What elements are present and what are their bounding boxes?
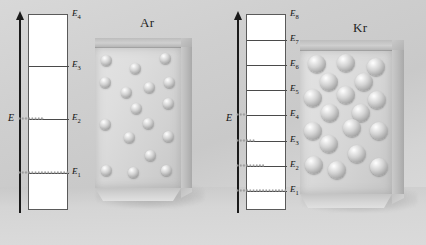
energy-axis-label-krypton: E (226, 113, 232, 123)
container-right-face-argon (181, 47, 192, 188)
container-bottom-bevel-krypton (392, 194, 404, 204)
gas-particle (337, 86, 355, 104)
panel-argon: E E4 E3 E2 E1 Ar (0, 0, 213, 245)
energy-axis-line-krypton (237, 19, 239, 213)
level-label-e3-argon-sub: 3 (78, 64, 81, 71)
element-label-krypton: Kr (353, 21, 368, 34)
container-front-face-argon (95, 47, 181, 188)
gas-particle (321, 104, 339, 122)
gas-particle (368, 91, 386, 109)
level-label-e4-krypton-sub: 4 (296, 113, 299, 120)
population-line-e1-krypton (236, 189, 286, 192)
level-label-e8-krypton-sub: 8 (296, 13, 299, 20)
level-label-e6-krypton: E6 (290, 59, 299, 70)
container-top-face-krypton (300, 40, 392, 50)
energy-ladder-argon (28, 14, 68, 210)
level-label-e2-krypton: E2 (290, 160, 299, 171)
gas-particle (145, 150, 156, 161)
level-label-e4-argon-sub: 4 (78, 13, 81, 20)
gas-particle (101, 55, 112, 66)
gas-particle (128, 167, 139, 178)
level-label-e1-krypton-sub: 1 (296, 189, 299, 196)
level-label-e1-argon: E1 (72, 167, 81, 178)
gas-particle (370, 158, 388, 176)
gas-particle (124, 132, 135, 143)
population-line-e4-krypton (236, 113, 247, 116)
energy-ladder-krypton (246, 14, 286, 210)
level-label-e3-argon: E3 (72, 60, 81, 71)
gas-particle (130, 63, 141, 74)
gas-particle (355, 73, 373, 91)
population-line-e3-krypton (236, 139, 255, 142)
container-bottom-face-argon (95, 188, 181, 201)
level-label-e7-krypton-sub: 7 (296, 38, 299, 45)
level-label-e1-krypton: E1 (290, 185, 299, 196)
energy-axis-arrowhead-argon (16, 11, 24, 20)
container-top-face-argon (95, 38, 181, 47)
energy-axis-line-argon (19, 19, 21, 213)
container-front-face-krypton (300, 50, 392, 194)
gas-particle (370, 122, 388, 140)
gas-particle (367, 58, 385, 76)
gas-particle (131, 103, 142, 114)
level-label-e5-krypton: E5 (290, 84, 299, 95)
gas-particle (160, 53, 171, 64)
gas-particle (144, 82, 155, 93)
level-label-e3-krypton-sub: 3 (296, 139, 299, 146)
container-right-face-krypton (392, 50, 404, 194)
figure-canvas: E E4 E3 E2 E1 Ar (0, 0, 426, 245)
population-line-e2-krypton (236, 164, 264, 167)
level-label-e2-argon-sub: 2 (78, 117, 81, 124)
gas-particle (308, 55, 326, 73)
level-label-e5-krypton-sub: 5 (296, 88, 299, 95)
gas-particle (100, 119, 111, 130)
population-line-e2-argon (18, 117, 44, 120)
level-label-e4-krypton: E4 (290, 109, 299, 120)
energy-axis-label-argon: E (8, 113, 14, 123)
level-line-e4-krypton (247, 115, 287, 116)
gas-container-krypton (300, 40, 404, 210)
gas-particle (320, 135, 338, 153)
population-line-e1-argon (18, 171, 70, 174)
energy-axis-arrowhead-krypton (234, 11, 242, 20)
gas-particle (304, 89, 322, 107)
container-top-bevel-argon (181, 38, 192, 47)
level-label-e8-krypton: E8 (290, 9, 299, 20)
container-bottom-bevel-argon (181, 188, 192, 198)
level-line-e3-argon (29, 66, 69, 67)
gas-particle (164, 77, 175, 88)
container-front-rim-krypton (300, 50, 392, 51)
container-front-rim-argon (95, 47, 181, 48)
gas-container-argon (95, 38, 192, 204)
gas-particle (348, 145, 366, 163)
gas-particle (143, 118, 154, 129)
level-label-e4-argon: E4 (72, 9, 81, 20)
gas-particle (343, 119, 361, 137)
level-label-e2-argon: E2 (72, 113, 81, 124)
container-bottom-face-krypton (300, 194, 392, 208)
level-label-e7-krypton: E7 (290, 34, 299, 45)
gas-particle (100, 77, 111, 88)
gas-particle (101, 165, 112, 176)
gas-particle (163, 98, 174, 109)
level-label-e3-krypton: E3 (290, 135, 299, 146)
level-line-e6-krypton (247, 65, 287, 66)
gas-particle (337, 54, 355, 72)
level-label-e2-krypton-sub: 2 (296, 164, 299, 171)
gas-particle (320, 73, 338, 91)
level-line-e7-krypton (247, 40, 287, 41)
gas-particle (163, 131, 174, 142)
level-line-e5-krypton (247, 90, 287, 91)
gas-particle (161, 165, 172, 176)
container-top-bevel-krypton (392, 40, 404, 50)
gas-particle (121, 87, 132, 98)
gas-particle (328, 161, 346, 179)
gas-particle (304, 122, 322, 140)
gas-particle (305, 156, 323, 174)
level-label-e1-argon-sub: 1 (78, 171, 81, 178)
panel-krypton: E E8 E7 E6 E5 E4 (213, 0, 426, 245)
element-label-argon: Ar (140, 16, 155, 29)
level-label-e6-krypton-sub: 6 (296, 63, 299, 70)
